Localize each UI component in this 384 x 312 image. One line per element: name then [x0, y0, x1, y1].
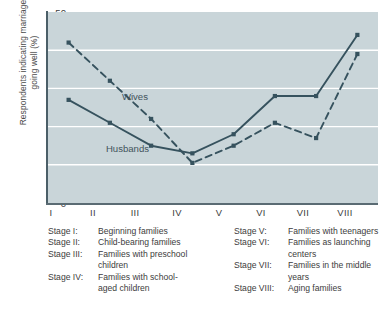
x-tick-label-4: IV — [157, 207, 197, 218]
x-tick-label-5: V — [199, 207, 239, 218]
stage-legend-row: Stage IV:Families with school- — [48, 272, 216, 283]
stage-legend-left-column: Stage I:Beginning familiesStage II:Child… — [48, 226, 216, 294]
x-tick-label-1: I — [31, 207, 71, 218]
stage-legend-value: Families in the middle — [288, 260, 384, 271]
chart-canvas — [48, 12, 378, 203]
stage-legend-value: Beginning families — [98, 226, 216, 237]
stage-legend-row: Stage VII:Families in the middle — [234, 260, 384, 271]
stage-legend-row: Stage V:Families with teenagers — [234, 226, 384, 237]
stage-legend-row: Stage II:Child-bearing families — [48, 237, 216, 248]
series-label-wives: Wives — [122, 91, 148, 102]
stage-legend-right-column: Stage V:Families with teenagersStage VI:… — [234, 226, 384, 294]
x-tick-label-7: VII — [283, 207, 323, 218]
x-axis-line — [46, 203, 378, 205]
x-tick-label-8: VIII — [325, 207, 365, 218]
stage-legend-key: Stage III: — [48, 249, 98, 260]
stage-legend-value-continued: aged children — [48, 283, 216, 294]
stage-legend-value: Families as launching — [288, 237, 384, 248]
stage-legend-value: Families with teenagers — [288, 226, 384, 237]
stage-legend-key: Stage VII: — [234, 260, 288, 271]
stage-legend-key: Stage VI: — [234, 237, 288, 248]
stage-legend-row: Stage I:Beginning families — [48, 226, 216, 237]
stage-legend-key: Stage V: — [234, 226, 288, 237]
stage-legend-key: Stage VIII: — [234, 283, 288, 294]
series-label-husbands: Husbands — [106, 143, 149, 154]
stage-legend-value: Aging families — [288, 283, 384, 294]
x-tick-label-6: VI — [241, 207, 281, 218]
stage-legend-row: Stage VI:Families as launching — [234, 237, 384, 248]
stage-legend-value-continued: children — [48, 260, 216, 271]
stage-legend-row: Stage VIII:Aging families — [234, 283, 384, 294]
chart-figure: Respondents indicating marriage going we… — [0, 0, 384, 312]
x-tick-label-3: III — [115, 207, 155, 218]
stage-legend-value-continued: years — [234, 272, 384, 283]
stage-legend-value: Families with school- — [98, 272, 216, 283]
stage-legend-key: Stage I: — [48, 226, 98, 237]
stage-legend-key: Stage IV: — [48, 272, 98, 283]
x-tick-label-2: II — [73, 207, 113, 218]
stage-legend-row: Stage III:Families with preschool — [48, 249, 216, 260]
stage-legend-value: Families with preschool — [98, 249, 216, 260]
stage-legend-key: Stage II: — [48, 237, 98, 248]
stage-legend-value-continued: centers — [234, 249, 384, 260]
stage-legend-value: Child-bearing families — [98, 237, 216, 248]
plot-area: Wives Husbands — [48, 12, 378, 203]
y-axis-title: Respondents indicating marriage going we… — [18, 0, 39, 153]
y-axis-line — [46, 11, 48, 204]
